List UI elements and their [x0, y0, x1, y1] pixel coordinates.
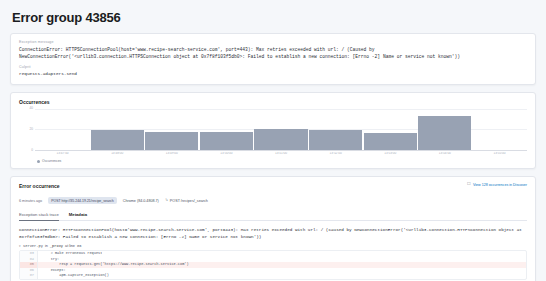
transaction-icon: ↳	[165, 199, 168, 203]
x-tick-label: 13:53:00	[364, 152, 417, 156]
chart-bar-slot[interactable]	[473, 109, 526, 150]
occurrence-transaction-label: POST /recipes/_search	[170, 199, 208, 203]
code-block: 83 # make erroneous request84 try:85 res…	[19, 250, 527, 280]
exception-message-panel: Exception message ConnectionError: HTTPS…	[10, 33, 536, 85]
tab-exception-stack-trace[interactable]: Exception stack trace	[19, 210, 59, 220]
chart-bar-slot[interactable]	[36, 109, 89, 150]
occurrence-meta-row: 6 minutes ago POST http://35.244.19.21/r…	[19, 197, 527, 204]
stack-frame-function: _proxy	[50, 244, 63, 248]
culprit-label: Culprit	[19, 65, 527, 69]
view-in-discover-label: View 128 occurrences in Discover	[473, 183, 527, 187]
occurrence-url-badge[interactable]: POST http://35.244.19.21/recipe_search	[48, 197, 117, 204]
chart-bar-slot[interactable]	[309, 109, 362, 150]
occurrence-tabs: Exception stack trace Metadata	[19, 210, 527, 221]
stack-frame-in-word: in	[45, 244, 48, 248]
code-line-text: apm.capture_exception()	[38, 273, 109, 279]
chart-bar[interactable]	[309, 130, 362, 149]
x-tick-label: 13:49:00	[145, 152, 198, 156]
occurrence-browser-label: Chrome (84.0.4808.7)	[123, 199, 159, 203]
x-tick-label: 13:52:00	[309, 152, 362, 156]
error-group-page: Error group 43856 Exception message Conn…	[0, 0, 546, 281]
x-tick-label: 13:50:00	[200, 152, 253, 156]
y-tick-label: 20	[29, 128, 33, 131]
culprit-value: requests.adapters.send	[19, 71, 527, 77]
chart-bar-slot[interactable]	[200, 109, 253, 150]
chart-bar[interactable]	[200, 132, 253, 149]
code-line: 87 apm.capture_exception()	[20, 273, 526, 279]
x-tick-label: 13:51:00	[254, 152, 307, 156]
stack-frame-at-word: at line	[65, 244, 75, 248]
chart-legend[interactable]: Occurrences	[37, 159, 527, 163]
exception-message-text: ConnectionError: HTTPSConnectionPool(hos…	[19, 46, 527, 60]
chart-plot-area	[35, 109, 527, 151]
tab-metadata[interactable]: Metadata	[69, 210, 87, 220]
chart-bar[interactable]	[418, 116, 471, 150]
legend-label: Occurrences	[42, 159, 61, 163]
x-tick-label: 13:47:00	[36, 152, 89, 156]
occurrence-transaction[interactable]: ↳ POST /recipes/_search	[165, 199, 208, 203]
error-occurrence-panel: Error occurrence ☐ View 128 occurrences …	[10, 176, 536, 281]
stack-frame-header[interactable]: ▾ server.py in _proxy at line 86	[19, 244, 527, 248]
chart-bar-slot[interactable]	[91, 109, 144, 150]
external-link-icon: ☐	[467, 183, 471, 187]
occurrence-timestamp: 6 minutes ago	[19, 199, 42, 203]
occurrences-panel: Occurrences 40 20 0 13:47:0013:48:0013:4…	[10, 92, 536, 170]
view-in-discover-link[interactable]: ☐ View 128 occurrences in Discover	[467, 183, 527, 187]
page-title: Error group 43856	[12, 10, 536, 25]
chart-x-axis: 13:47:0013:48:0013:49:0013:50:0013:51:00…	[35, 152, 527, 156]
occurrence-browser: Chrome (84.0.4808.7)	[123, 199, 159, 203]
occurrences-chart: 40 20 0	[19, 109, 527, 151]
chevron-down-icon: ▾	[19, 245, 21, 248]
code-line-number: 87	[20, 273, 38, 279]
chart-y-axis: 40 20 0	[19, 109, 35, 151]
y-tick-label: 40	[29, 107, 33, 110]
stack-frame-line: 86	[77, 244, 81, 248]
chart-bar-slot[interactable]	[254, 109, 307, 150]
chart-bar[interactable]	[364, 133, 417, 149]
legend-swatch-icon	[37, 160, 40, 163]
chart-bar-slot[interactable]	[145, 109, 198, 150]
x-tick-label: 13:48:00	[91, 152, 144, 156]
chart-bar[interactable]	[145, 132, 198, 149]
x-tick-label: 13:55:00	[473, 152, 526, 156]
error-occurrence-title: Error occurrence	[19, 183, 60, 189]
occurrences-title: Occurrences	[19, 99, 527, 105]
chart-bars	[35, 109, 527, 150]
chart-bar[interactable]	[254, 129, 307, 150]
stack-frame-file: server.py	[23, 244, 43, 248]
x-tick-label: 13:54:00	[418, 152, 471, 156]
y-tick-label: 0	[31, 149, 33, 152]
exception-message-label: Exception message	[19, 40, 527, 44]
stack-trace-message: ConnectionError: HTTPSConnectionPool(hos…	[19, 227, 527, 240]
chart-bar-slot[interactable]	[418, 109, 471, 150]
chart-bar-slot[interactable]	[364, 109, 417, 150]
chart-bar[interactable]	[91, 130, 144, 149]
